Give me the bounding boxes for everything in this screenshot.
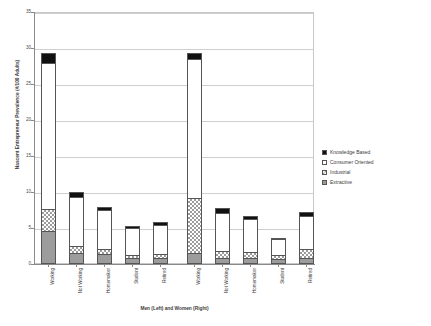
x-axis-tick-mark [48,264,49,267]
legend-swatch-icon [322,180,327,185]
bar-segment-extractive [244,259,257,263]
bar[interactable] [97,207,112,264]
bar[interactable] [69,192,84,264]
y-axis-tick-label: 15 [18,153,31,158]
x-axis-tick-label: Not Working [78,268,83,300]
x-axis-tick-label: Working [196,268,201,300]
bar-segment-consumer-oriented [126,229,139,256]
legend-item[interactable]: Industrial [322,167,374,177]
bar-segment-extractive [126,259,139,263]
bar-segment-industrial [300,250,313,259]
y-axis-tick-label: 0 [18,261,31,266]
x-axis-tick-mark [104,264,105,267]
bar[interactable] [125,226,140,264]
x-axis-tick-mark [160,264,161,267]
bar-segment-industrial [42,210,55,232]
legend-item-label: Knowledge Based [330,150,370,155]
chart-legend: Knowledge BasedConsumer OrientedIndustri… [322,147,374,187]
legend-item-label: Extractive [330,180,352,185]
y-axis-tick-label: 5 [18,225,31,230]
bar-segment-extractive [42,232,55,263]
bar[interactable] [215,208,230,264]
legend-item[interactable]: Knowledge Based [322,147,374,157]
x-axis-tick-label: Retired [308,268,313,300]
y-axis-tick-label: 30 [18,45,31,50]
x-axis-tick-label: Student [280,268,285,300]
bar-segment-industrial [216,252,229,259]
x-axis-tick-label: Retired [162,268,167,300]
y-axis-title: Nascent Entrepreneur Prevalence (#/100 A… [15,45,20,185]
legend-item-label: Consumer Oriented [330,160,374,165]
x-axis-tick-mark [250,264,251,267]
bar-segment-consumer-oriented [216,214,229,252]
bar-segment-extractive [70,254,83,263]
y-axis-tick-label: 25 [18,81,31,86]
bar[interactable] [243,216,258,264]
legend-swatch-icon [322,150,327,155]
bar-segment-extractive [272,260,285,263]
legend-swatch-icon [322,170,327,175]
x-axis-tick-label: Student [134,268,139,300]
y-axis-tick-label: 20 [18,117,31,122]
bar-segment-extractive [300,259,313,263]
x-axis-tick-mark [194,264,195,267]
bar-segment-consumer-oriented [300,217,313,250]
bar-segment-extractive [98,255,111,263]
bar[interactable] [271,238,286,264]
bar-segment-consumer-oriented [272,240,285,256]
x-axis-tick-mark [76,264,77,267]
bar[interactable] [153,222,168,264]
bar-segment-extractive [188,254,201,263]
bar[interactable] [187,53,202,264]
x-axis-tick-label: Homemaker [106,268,111,300]
x-axis-tick-label: Not Working [224,268,229,300]
x-axis-tick-mark [306,264,307,267]
bar-segment-consumer-oriented [42,64,55,211]
bar-segment-consumer-oriented [154,226,167,255]
bar[interactable] [299,212,314,264]
x-axis-title: Men (Left) and Women (Right) [34,306,315,311]
legend-swatch-icon [322,160,327,165]
legend-item[interactable]: Consumer Oriented [322,157,374,167]
x-axis-tick-mark [278,264,279,267]
bar-segment-consumer-oriented [98,211,111,250]
bar-segment-industrial [188,199,201,254]
bar-segment-consumer-oriented [70,198,83,247]
chart-figure: Nascent Entrepreneur Prevalence (#/100 A… [0,0,431,326]
bar-segment-extractive [154,259,167,263]
y-axis-tick-label: 35 [18,9,31,14]
bar-segment-consumer-oriented [244,220,257,253]
legend-item[interactable]: Extractive [322,177,374,187]
bar-segment-extractive [216,259,229,263]
bar-segment-consumer-oriented [188,60,201,199]
x-axis-tick-mark [132,264,133,267]
bar-segment-knowledge-based [42,54,55,63]
x-axis-tick-mark [222,264,223,267]
y-axis-tick-label: 10 [18,189,31,194]
x-axis-tick-label: Working [50,268,55,300]
legend-item-label: Industrial [330,170,350,175]
bar[interactable] [41,53,56,264]
bars-layer [34,12,314,264]
x-axis-tick-label: Homemaker [252,268,257,300]
